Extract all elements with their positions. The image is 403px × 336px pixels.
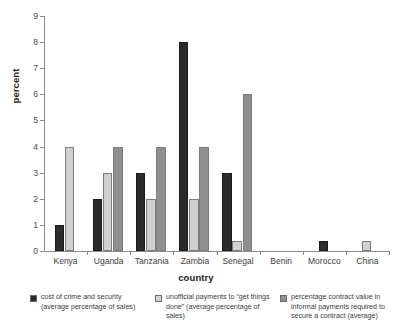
bar [65,147,75,251]
bar [319,241,329,251]
bar [93,199,103,251]
y-axis-tick [40,251,44,252]
x-axis-tick [389,251,390,255]
legend-label: cost of crime and security(average perce… [41,293,135,312]
plot-area [44,16,389,252]
y-axis-tick-label: 6 [18,90,38,98]
x-axis-tick [130,251,131,255]
bar [113,147,123,251]
bar [189,199,199,251]
y-axis-tick [40,147,44,148]
y-axis-tick [40,173,44,174]
bar [146,199,156,251]
legend-swatch [280,295,287,302]
y-axis-tick [40,199,44,200]
legend: cost of crime and security(average perce… [30,294,403,336]
bar [243,94,253,251]
legend-swatch [30,295,37,302]
x-axis-tick [260,251,261,255]
y-axis-tick [40,225,44,226]
legend-label: percentage contract value ininformal pay… [291,293,385,322]
x-axis-tick-labels: KenyaUgandaTanzaniaZambiaSenegalBeninMor… [44,256,389,270]
bar [55,225,65,251]
y-axis-tick-label: 2 [18,195,38,203]
y-axis-tick-label: 3 [18,169,38,177]
y-axis-tick-label: 8 [18,38,38,46]
y-axis-tick-label: 9 [18,12,38,20]
y-axis-tick-labels: 0123456789 [18,16,38,252]
y-axis-tick-label: 1 [18,221,38,229]
x-axis-tick [173,251,174,255]
y-axis-tick [40,42,44,43]
y-axis-tick-label: 7 [18,64,38,72]
bar [362,241,372,251]
x-axis-label: country [148,272,244,283]
bar [136,173,146,251]
bar [103,173,113,251]
bar [156,147,166,251]
legend-swatch [155,295,162,302]
x-axis-tick [303,251,304,255]
bar [179,42,189,251]
y-axis-tick-label: 0 [18,247,38,255]
y-axis-tick-label: 5 [18,116,38,124]
x-axis-tick [346,251,347,255]
x-axis-tick [217,251,218,255]
y-axis-tick [40,94,44,95]
legend-label: unofficial payments to “get thingsdone” … [166,293,277,322]
bar [222,173,232,251]
x-axis-tick-label: China [340,256,395,266]
bar [232,241,242,251]
y-axis-tick [40,16,44,17]
x-axis-tick [87,251,88,255]
y-axis-tick-label: 4 [18,143,38,151]
bar-chart: percent 0123456789 KenyaUgandaTanzaniaZa… [0,0,403,336]
y-axis-tick [40,120,44,121]
bar [199,147,209,251]
y-axis-tick [40,68,44,69]
y-axis-line [44,16,45,252]
